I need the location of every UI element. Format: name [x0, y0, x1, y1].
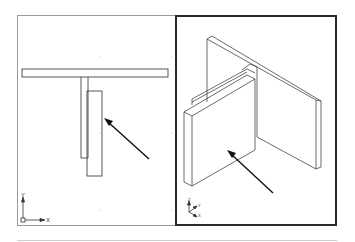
plate-top-face: [184, 75, 255, 116]
top-view-drawing: Y X: [18, 16, 177, 227]
viewport-isometric-view[interactable]: Z Y X: [175, 15, 337, 226]
status-bar-divider: [17, 240, 337, 241]
pointer-arrow-icon: [227, 150, 273, 193]
ucs-z-label: Z: [188, 197, 191, 202]
ucs-iso-icon: [188, 201, 198, 217]
pointer-arrow-icon: [104, 118, 149, 159]
ucs-y-label: Y: [21, 192, 25, 198]
t-flange-outline: [22, 69, 168, 77]
viewport-top-view[interactable]: Y X: [17, 15, 176, 226]
ucs-x-label: X: [198, 213, 201, 218]
ucs-icon: [21, 197, 45, 222]
ucs-y-label: Y: [198, 203, 201, 208]
isometric-drawing: Z Y X: [177, 17, 339, 228]
ucs-x-label: X: [46, 217, 50, 223]
flange-outline: [207, 36, 321, 169]
